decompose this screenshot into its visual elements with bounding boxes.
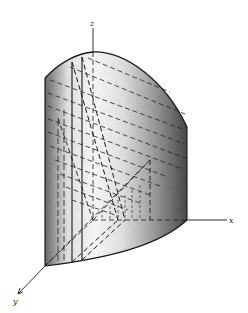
y-axis (18, 266, 45, 294)
x-axis-label: x (229, 216, 234, 225)
solid-diagram: z x y (0, 0, 248, 313)
y-axis-label: y (12, 297, 18, 306)
solid-body (45, 52, 187, 266)
z-axis-label: z (89, 19, 95, 28)
